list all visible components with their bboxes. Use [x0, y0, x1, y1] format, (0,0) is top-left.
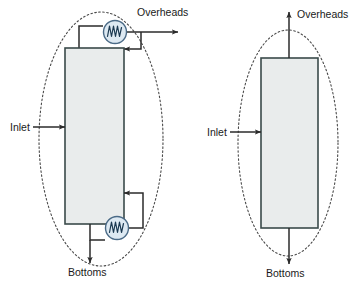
bottoms-to-reboiler-line	[90, 224, 105, 240]
left-diagram: Inlet Overheads Bottoms	[10, 6, 188, 278]
diagram-canvas: Inlet Overheads Bottoms Inlet Overheads …	[0, 0, 355, 290]
inlet-label-left: Inlet	[10, 121, 30, 133]
reboiler	[106, 217, 129, 240]
process-diagram-figure: Inlet Overheads Bottoms Inlet Overheads …	[0, 0, 355, 290]
overheads-label-left: Overheads	[137, 6, 188, 18]
inlet-label-right: Inlet	[207, 126, 227, 138]
bottoms-label-left: Bottoms	[68, 266, 107, 278]
condenser	[104, 21, 127, 44]
distillation-column-right	[261, 58, 318, 228]
right-diagram: Inlet Overheads Bottoms	[207, 8, 348, 279]
vapor-line-to-condenser	[79, 26, 103, 48]
distillation-column-left	[65, 48, 124, 224]
overheads-label-right: Overheads	[297, 8, 348, 20]
bottoms-label-right: Bottoms	[266, 267, 305, 279]
